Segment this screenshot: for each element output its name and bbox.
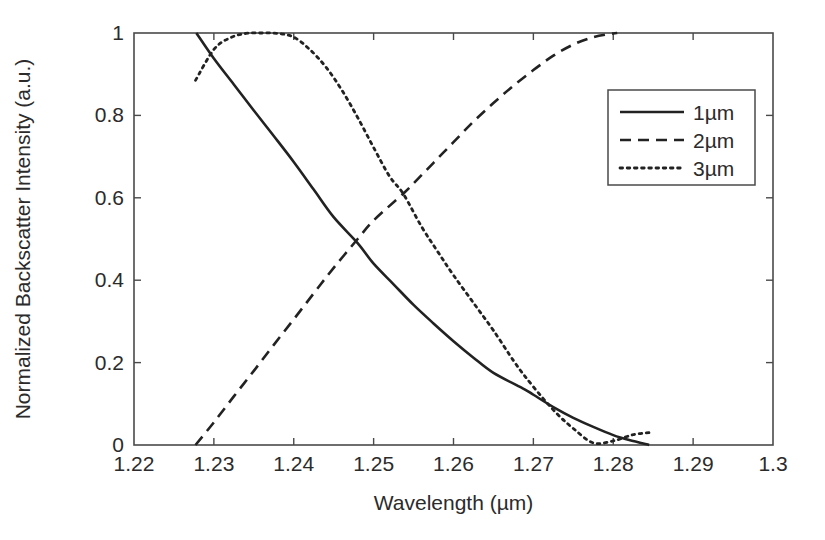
y-tick-label: 0.4 bbox=[95, 268, 125, 291]
x-tick-label: 1.27 bbox=[513, 452, 554, 475]
x-tick-label: 1.29 bbox=[673, 452, 714, 475]
legend-label-1µm: 1µm bbox=[693, 101, 734, 124]
x-axis-tick-labels: 1.221.231.241.251.261.271.281.291.3 bbox=[114, 452, 788, 475]
series-line-2µm bbox=[196, 33, 618, 445]
x-axis-title: Wavelength (µm) bbox=[374, 491, 534, 514]
y-tick-label: 1 bbox=[112, 21, 124, 44]
x-tick-label: 1.26 bbox=[433, 452, 474, 475]
chart-plot: 1.221.231.241.251.261.271.281.291.3 00.2… bbox=[0, 0, 825, 540]
legend-label-2µm: 2µm bbox=[693, 129, 734, 152]
x-tick-label: 1.3 bbox=[758, 452, 787, 475]
x-tick-label: 1.24 bbox=[273, 452, 314, 475]
data-series-group bbox=[196, 33, 650, 445]
series-line-1µm bbox=[196, 33, 649, 445]
y-tick-label: 0.6 bbox=[95, 186, 124, 209]
x-tick-label: 1.23 bbox=[193, 452, 234, 475]
legend-label-3µm: 3µm bbox=[693, 157, 734, 180]
x-tick-label: 1.25 bbox=[353, 452, 394, 475]
series-line-3µm bbox=[196, 33, 650, 444]
x-tick-label: 1.28 bbox=[593, 452, 634, 475]
y-axis-title: Normalized Backscatter Intensity (a.u.) bbox=[11, 59, 34, 420]
y-tick-label: 0.2 bbox=[95, 351, 124, 374]
y-tick-label: 0 bbox=[112, 433, 124, 456]
figure-container: 1.221.231.241.251.261.271.281.291.3 00.2… bbox=[0, 0, 825, 540]
y-tick-label: 0.8 bbox=[95, 103, 124, 126]
chart-legend: 1µm2µm3µm bbox=[608, 90, 755, 185]
y-axis-tick-labels: 00.20.40.60.81 bbox=[95, 21, 125, 456]
